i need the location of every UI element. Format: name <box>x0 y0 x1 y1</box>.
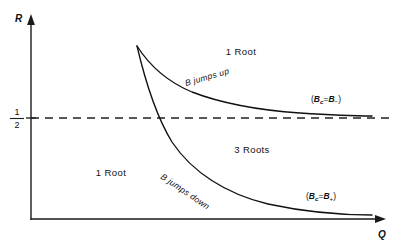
y-axis-arrowhead <box>27 14 35 25</box>
y-axis-label: R <box>15 13 23 24</box>
x-axis-label: Q <box>378 229 386 240</box>
x-axis-arrowhead <box>375 215 386 223</box>
y-tick-denominator: 2 <box>14 120 19 130</box>
asymptote-label-upper: (Bc=B−) <box>311 94 341 105</box>
region-label-middle: 3 Roots <box>234 144 270 155</box>
region-label-upper-right: 1 Root <box>226 46 256 57</box>
x-axis: Q <box>31 215 386 240</box>
svg-text:(Bc=B−): (Bc=B−) <box>311 94 341 105</box>
diagram-canvas: R Q 1 2 1 Root 1 Root 3 Roots B jumps up <box>0 0 400 249</box>
asymptote-label-lower: (Bc=B+) <box>306 191 336 202</box>
y-tick-numerator: 1 <box>14 107 19 117</box>
curve-label-jumps-down: B jumps down <box>159 171 212 211</box>
upper-paren-close: ) <box>338 94 341 104</box>
curve-label-jumps-up: B jumps up <box>184 66 231 88</box>
svg-text:(Bc=B+): (Bc=B+) <box>306 191 336 202</box>
lower-paren-close: ) <box>333 191 336 201</box>
region-label-lower-left: 1 Root <box>96 167 126 178</box>
bifurcation-diagram-figure: R Q 1 2 1 Root 1 Root 3 Roots B jumps up <box>0 0 400 249</box>
lower-branch-curve <box>137 46 372 215</box>
